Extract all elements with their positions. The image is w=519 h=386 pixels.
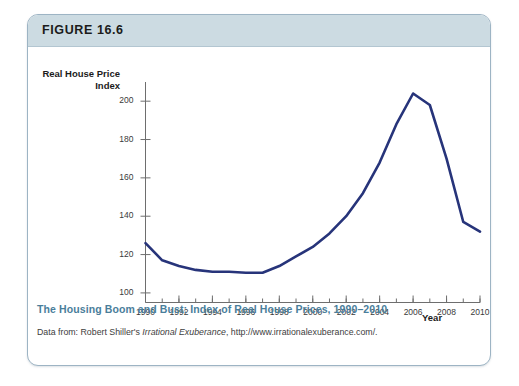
y-tick-label: 180 [106,134,134,144]
line-chart-svg [28,46,491,336]
figure-card: FIGURE 16.6 Real House Price Index Year … [27,14,491,366]
source-italic-title: Irrational Exuberance [142,327,226,337]
x-tick-label: 2006 [396,307,430,317]
data-series-group [146,94,481,273]
chart-plot-area: Real House Price Index Year 100120140160… [28,46,491,336]
y-tick-label: 100 [106,287,134,297]
y-tick-label: 160 [106,172,134,182]
figure-label: FIGURE 16.6 [42,23,124,37]
data-line-real-house-price-index [146,94,481,273]
source-prefix: Data from: Robert Shiller's [37,327,142,337]
figure-source-note: Data from: Robert Shiller's Irrational E… [37,327,378,337]
y-tick-label: 140 [106,210,134,220]
x-tick-label: 2010 [463,307,491,317]
figure-caption-title: The Housing Boom and Bust: Index of Real… [37,303,387,315]
y-tick-label: 200 [106,95,134,105]
source-suffix: , http://www.irrationalexuberance.com/. [226,327,378,337]
y-tick-label: 120 [106,249,134,259]
x-tick-label: 2008 [430,307,464,317]
